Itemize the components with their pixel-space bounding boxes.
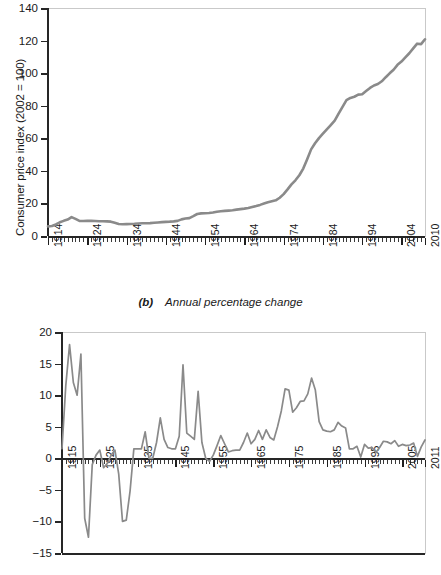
panel-b-caption-prefix: (b) [138,296,153,308]
panel-b-caption: (b) Annual percentage change [0,296,441,308]
panel-a-cpi-index: Consumer price index (2002 = 100) 020406… [0,0,441,292]
panel-a-line-series [0,0,441,292]
data-line [48,39,425,226]
data-line [62,345,425,538]
panel-b-caption-text: Annual percentage change [165,296,302,308]
panel-b-cpi-change: Annual change in CPI −15−10−505101520191… [0,320,441,575]
panel-b-line-series [0,320,441,575]
